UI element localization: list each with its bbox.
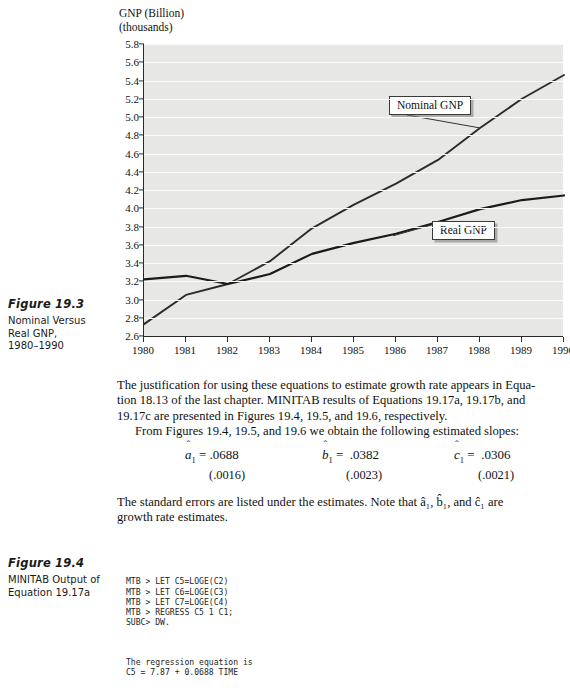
equation-b-subscript: 1 — [329, 455, 333, 465]
x-axis-tick-mark — [227, 337, 228, 342]
equation-group-b: ˆb1 = .0382 (.0023) — [322, 447, 382, 483]
x-axis-tick-label: 1987 — [415, 344, 459, 356]
y-axis-tick-label: 3.2 — [79, 275, 139, 287]
equation-group-a: ˆa1 = .0688 (.0016) — [185, 447, 245, 483]
y-axis-tick-mark — [139, 208, 144, 209]
y-axis-tick-label: 4.4 — [79, 166, 139, 178]
x-axis-tick-label: 1989 — [499, 344, 543, 356]
minitab-regression-equation: The regression equation is C5 = 7.87 + 0… — [126, 657, 556, 677]
x-axis-tick-label: 1982 — [205, 344, 249, 356]
x-axis-tick-mark — [311, 337, 312, 342]
chart-gridline — [144, 190, 563, 191]
x-axis-tick-label: 1986 — [373, 344, 417, 356]
equation-b-line: ˆb1 = .0382 — [322, 447, 382, 465]
para1-line1: The justification for using these equati… — [117, 378, 564, 393]
equation-a-stderr: (.0016) — [185, 468, 245, 483]
y-axis-tick-mark — [139, 135, 144, 136]
chart-gridline — [144, 245, 563, 246]
equation-a-equals: = — [199, 447, 206, 462]
figure-19-4-caption: Figure 19.4 MINITAB Output of Equation 1… — [8, 556, 112, 599]
x-axis-tick-label: 1985 — [331, 344, 375, 356]
chart-gridline — [144, 135, 563, 136]
paragraph-standard-errors: The standard errors are listed under the… — [117, 495, 564, 526]
y-axis-tick-mark — [139, 43, 144, 44]
chart-gridline — [144, 172, 563, 173]
para2-line2: growth rate estimates. — [117, 510, 564, 525]
chart-gridline — [144, 99, 563, 100]
x-axis-tick-mark — [395, 337, 396, 342]
equation-c-stderr: (.0021) — [454, 468, 514, 483]
series-line-nominal-gnp — [144, 75, 564, 324]
x-axis-tick-label: 1988 — [457, 344, 501, 356]
x-axis-tick-label: 1980 — [121, 344, 165, 356]
chart-gridline — [144, 263, 563, 264]
equation-b-equals: = — [336, 447, 343, 462]
y-axis-tick-label: 4.0 — [79, 202, 139, 214]
gnp-line-chart: GNP (Billion) (thousands) Nominal GNP Re… — [117, 6, 563, 366]
equation-c-subscript: 1 — [460, 455, 464, 465]
x-axis-tick-mark — [143, 337, 144, 342]
y-axis-tick-label: 5.6 — [79, 56, 139, 68]
page-root: Figure 19.3 Nominal Versus Real GNP, 198… — [0, 0, 570, 693]
para1-line2: tion 18.13 of the last chapter. MINITAB … — [117, 393, 564, 408]
chart-gridline — [144, 208, 563, 209]
y-axis-tick-label: 3.6 — [79, 239, 139, 251]
para1-line3: 19.17c are presented in Figures 19.4, 19… — [117, 409, 564, 424]
equation-c-equals: = — [467, 447, 474, 462]
equation-a-value: .0688 — [210, 447, 239, 462]
y-axis-tick-mark — [139, 317, 144, 318]
x-axis-tick-mark — [479, 337, 480, 342]
equation-b-value: .0382 — [350, 447, 379, 462]
y-axis-tick-label: 2.8 — [79, 312, 139, 324]
equation-b-stderr: (.0023) — [322, 468, 382, 483]
x-axis-tick-label: 1983 — [247, 344, 291, 356]
y-axis-tick-mark — [139, 262, 144, 263]
y-axis-tick-label: 3.4 — [79, 257, 139, 269]
y-axis-tick-label: 2.6 — [79, 330, 139, 342]
figure-19-4-desc-line-1: MINITAB Output of — [8, 574, 112, 587]
y-axis-tick-mark — [139, 116, 144, 117]
x-axis-tick-mark — [563, 337, 564, 342]
y-axis-tick-label: 5.8 — [79, 38, 139, 50]
x-axis-tick-mark — [269, 337, 270, 342]
y-axis-tick-label: 3.8 — [79, 221, 139, 233]
chart-plot-wrapper: Nominal GNP Real GNP 1980198119821983198… — [117, 44, 563, 366]
x-axis-tick-label: 1984 — [289, 344, 333, 356]
chart-gridline — [144, 117, 563, 118]
callout-label-real-gnp: Real GNP — [432, 221, 495, 240]
y-axis-tick-mark — [139, 244, 144, 245]
y-axis-tick-mark — [139, 189, 144, 190]
x-axis-tick-label: 1981 — [163, 344, 207, 356]
chart-axis-title: GNP (Billion) (thousands) — [119, 6, 563, 34]
equation-a-subscript: 1 — [192, 455, 196, 465]
x-axis-tick-mark — [437, 337, 438, 342]
y-axis-tick-mark — [139, 226, 144, 227]
para1-line4: From Figures 19.4, 19.5, and 19.6 we obt… — [117, 424, 564, 439]
equation-c-value: .0306 — [481, 447, 510, 462]
y-axis-tick-mark — [139, 171, 144, 172]
y-axis-tick-mark — [139, 153, 144, 154]
para2-line1: The standard errors are listed under the… — [117, 495, 564, 510]
chart-gridline — [144, 318, 563, 319]
estimated-slopes-equations: ˆa1 = .0688 (.0016) ˆb1 = .0382 (.0023) … — [117, 447, 564, 491]
chart-axis-title-line-2: (thousands) — [119, 20, 563, 34]
y-axis-tick-mark — [139, 281, 144, 282]
chart-gridline — [144, 81, 563, 82]
minitab-commands: MTB > LET C5=LOGE(C2) MTB > LET C6=LOGE(… — [126, 576, 556, 627]
y-axis-tick-label: 5.2 — [79, 93, 139, 105]
y-axis-tick-mark — [139, 98, 144, 99]
equation-a-line: ˆa1 = .0688 — [185, 447, 245, 465]
x-axis-tick-mark — [185, 337, 186, 342]
x-axis-tick-label: 1990 — [541, 344, 570, 356]
y-axis-tick-label: 5.0 — [79, 111, 139, 123]
chart-x-axis: 1980198119821983198419851986198719881989… — [143, 336, 563, 362]
minitab-output-block: MTB > LET C5=LOGE(C2) MTB > LET C6=LOGE(… — [126, 556, 556, 693]
paragraph-justification: The justification for using these equati… — [117, 378, 564, 440]
chart-gridline — [144, 44, 563, 45]
x-axis-tick-mark — [353, 337, 354, 342]
y-axis-tick-label: 5.4 — [79, 75, 139, 87]
y-axis-tick-mark — [139, 80, 144, 81]
chart-gridline — [144, 227, 563, 228]
y-axis-tick-label: 4.8 — [79, 129, 139, 141]
y-axis-tick-mark — [139, 62, 144, 63]
